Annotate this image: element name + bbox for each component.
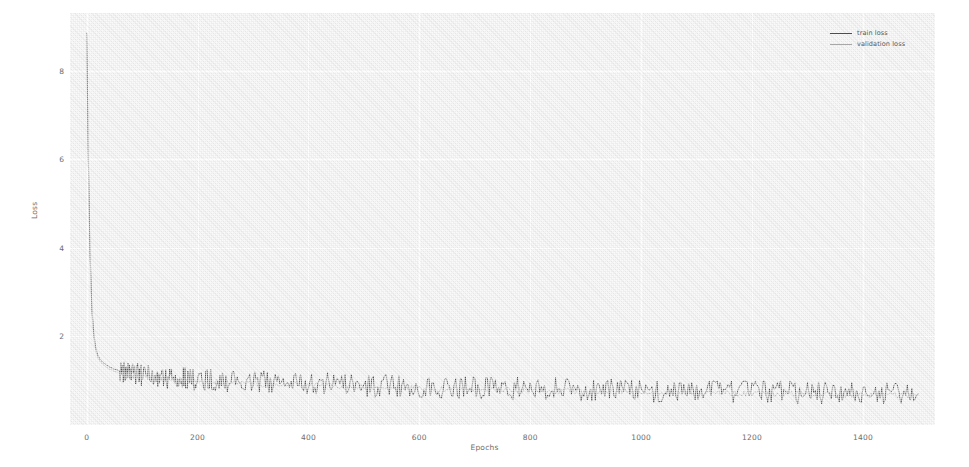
y-axis-label: Loss	[30, 202, 39, 219]
legend-item-train-loss: train loss	[830, 28, 905, 39]
legend-swatch-train-loss	[830, 33, 852, 34]
legend: train loss validation loss	[830, 28, 905, 50]
x-axis-label: Epochs	[0, 443, 969, 452]
y-tick-label: 2	[52, 332, 64, 341]
loss-curve-figure: 0200400600800100012001400 2468 Epochs Lo…	[0, 0, 969, 467]
y-tick-label: 4	[52, 243, 64, 252]
x-tick-label: 1400	[853, 433, 873, 442]
legend-item-validation-loss: validation loss	[830, 39, 905, 50]
loss-curves	[70, 13, 935, 425]
plot-area	[70, 13, 935, 425]
series-line-validation-loss	[87, 35, 919, 398]
x-tick-label: 400	[301, 433, 316, 442]
x-tick-label: 600	[412, 433, 427, 442]
x-tick-label: 800	[523, 433, 538, 442]
y-tick-label: 8	[52, 66, 64, 75]
y-tick-label: 6	[52, 155, 64, 164]
legend-label-validation-loss: validation loss	[857, 39, 905, 50]
series-line-train-loss	[87, 33, 919, 404]
legend-label-train-loss: train loss	[857, 28, 888, 39]
x-tick-label: 1000	[631, 433, 651, 442]
x-tick-label: 0	[84, 433, 89, 442]
legend-swatch-validation-loss	[830, 44, 852, 45]
x-tick-label: 200	[190, 433, 205, 442]
x-tick-label: 1200	[742, 433, 762, 442]
